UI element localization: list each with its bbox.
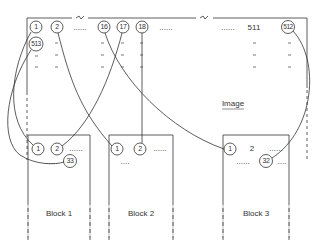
block3-label: Block 3 — [243, 209, 269, 218]
block-mapping-diagram: 1 2 ...... 16 17 18 ...... ...... 511 51… — [0, 0, 327, 252]
block3-cell-2: 2 — [250, 144, 254, 153]
image-cell-513: 513 — [30, 38, 42, 50]
block3-ellipsis-1: ...... — [269, 144, 282, 153]
block3-ellipsis-3: .... — [278, 157, 287, 166]
image-cell-1: 1 — [30, 21, 42, 33]
block1-ellipsis-2: ...... — [44, 157, 57, 166]
block1-ellipsis-1: ...... — [69, 144, 82, 153]
conn-17-b1-2 — [62, 33, 122, 146]
image-ellipsis-3: ...... — [221, 23, 234, 32]
image-cell-512: 512 — [282, 21, 294, 33]
image-ellipsis-1: ...... — [73, 23, 86, 32]
image-cell-2: 2 — [51, 21, 63, 33]
block2-ellipsis-1: ...... — [153, 144, 166, 153]
block2-label: Block 2 — [128, 209, 154, 218]
image-cell-16: 16 — [98, 21, 110, 33]
image-cell-18: 18 — [136, 21, 148, 33]
block3-ellipsis-2: ...... — [236, 157, 249, 166]
block2-ellipsis-2: .... — [121, 157, 130, 166]
block2-cell-2: 2 — [134, 143, 146, 155]
conn-16-b3-1 — [105, 33, 224, 149]
image-cell-17: 17 — [117, 21, 129, 33]
block1-cell-1: 1 — [32, 143, 44, 155]
block1-label: Block 1 — [46, 209, 72, 218]
block3-cell-1: 1 — [224, 143, 236, 155]
block3-cell-32: 32 — [260, 155, 272, 167]
image-ellipsis-2: ...... — [159, 23, 172, 32]
image-label: Image — [222, 99, 244, 108]
conn-512-b3-32 — [272, 31, 310, 158]
block1-cell-33: 33 — [64, 155, 76, 167]
block1-cell-2: 2 — [51, 143, 63, 155]
image-cell-511: 511 — [248, 23, 261, 32]
conn-2-b3-1 — [58, 33, 112, 146]
block2-cell-1: 1 — [111, 143, 123, 155]
